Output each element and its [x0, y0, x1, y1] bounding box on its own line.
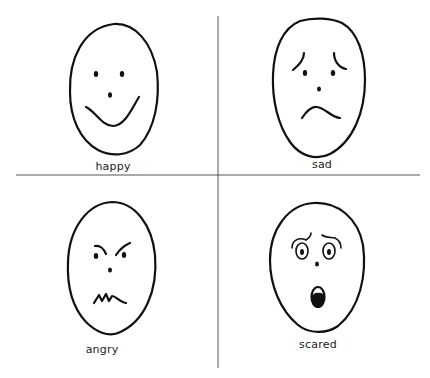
scared-face-outline — [270, 203, 364, 332]
label-sad: sad — [312, 158, 332, 171]
angry-mouth — [94, 294, 126, 303]
sad-left-brow — [293, 53, 304, 70]
angry-left-eye — [94, 253, 98, 259]
happy-face-outline — [70, 24, 158, 154]
angry-face-outline — [68, 202, 156, 334]
happy-mouth — [86, 97, 139, 126]
scared-face-icon — [270, 203, 364, 332]
sad-nose — [317, 86, 321, 91]
happy-left-eye — [94, 71, 98, 77]
label-happy: happy — [95, 160, 130, 173]
scared-left-brow — [292, 233, 311, 248]
sad-left-eye — [303, 70, 307, 76]
sad-right-brow — [334, 53, 346, 69]
scared-nose — [315, 261, 319, 266]
sad-right-eye — [331, 70, 335, 76]
angry-right-eye — [122, 252, 126, 258]
happy-face-icon — [70, 24, 158, 154]
angry-nose — [108, 267, 112, 272]
sad-mouth — [302, 107, 340, 118]
angry-face-icon — [68, 202, 156, 334]
sad-face-icon — [273, 19, 365, 158]
scared-right-pupil — [327, 249, 331, 255]
label-scared: scared — [299, 338, 337, 351]
happy-nose — [108, 92, 112, 98]
label-angry: angry — [86, 343, 119, 356]
scared-left-pupil — [300, 249, 304, 255]
angry-left-brow — [95, 246, 106, 254]
emotion-faces-sheet — [0, 0, 430, 378]
happy-right-eye — [120, 71, 124, 77]
